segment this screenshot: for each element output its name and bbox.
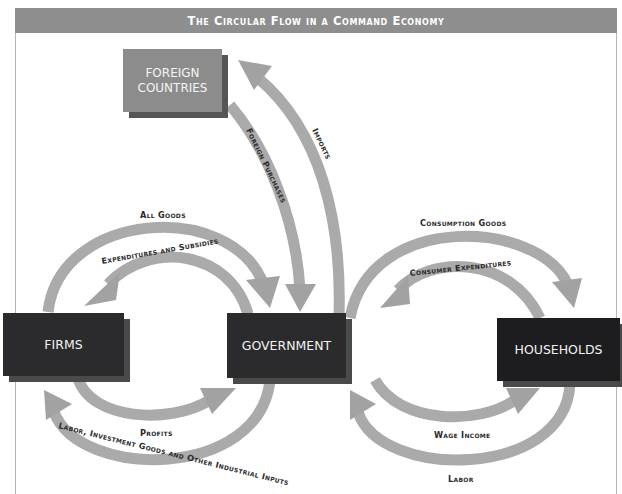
all-goods-arrowhead <box>246 276 280 308</box>
expenditures-subsidies-arrowhead <box>84 272 120 306</box>
consumer-expenditures-arrowhead <box>380 276 410 308</box>
node-firms: FIRMS <box>3 313 124 376</box>
label-all-goods: All Goods <box>140 210 186 220</box>
flow-arrows: All Goods Expenditures and Subsidies Pro… <box>0 0 622 494</box>
node-government: GOVERNMENT <box>227 313 346 378</box>
label-labor-investment: Labor, Investment Goods and Other Indust… <box>58 420 291 487</box>
node-firms-label: FIRMS <box>44 337 82 352</box>
label-profits: Profits <box>140 428 173 438</box>
label-wage-income: Wage Income <box>434 430 491 440</box>
node-foreign-label-2: COUNTRIES <box>138 81 208 96</box>
wage-income-arrow <box>375 380 515 417</box>
label-consumption-goods: Consumption Goods <box>420 218 506 228</box>
label-foreign-purchases: Foreign Purchases <box>244 126 289 204</box>
profits-arrow <box>78 378 210 415</box>
node-households: HOUSEHOLDS <box>497 318 620 381</box>
all-goods-arrow <box>48 227 263 312</box>
consumption-goods-arrowhead <box>552 278 582 308</box>
foreign-purchases-arrowhead <box>285 284 316 312</box>
node-foreign-label-1: FOREIGN <box>145 66 199 81</box>
node-government-label: GOVERNMENT <box>242 338 331 353</box>
label-labor: Labor <box>448 474 474 484</box>
node-households-label: HOUSEHOLDS <box>515 342 603 357</box>
node-foreign-countries: FOREIGN COUNTRIES <box>123 49 222 112</box>
foreign-purchases-arrow <box>230 105 300 290</box>
expenditures-subsidies-arrow <box>108 257 248 314</box>
